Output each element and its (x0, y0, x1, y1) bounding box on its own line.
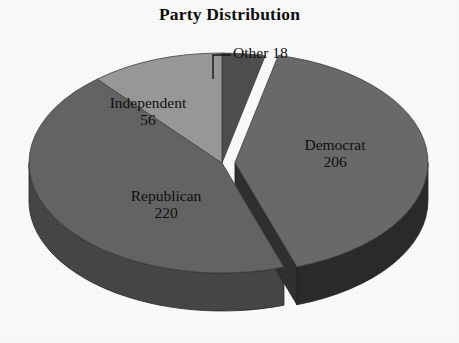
slice-label-other-text: Other 18 (233, 44, 288, 61)
pie-geometry (29, 53, 428, 311)
slice-label-democrat: Democrat 206 (283, 136, 387, 170)
slice-label-independent: Independent 56 (84, 94, 212, 128)
slice-label-independent-name: Independent (84, 94, 212, 111)
slice-label-republican-name: Republican (108, 187, 224, 204)
pie-chart-figure: Party Distribution Democrat 206 Republic… (0, 0, 459, 343)
slice-label-independent-value: 56 (84, 111, 212, 128)
pie-chart-canvas (0, 0, 459, 343)
slice-label-other: Other 18 (233, 44, 325, 61)
slice-label-republican-value: 220 (108, 204, 224, 221)
slice-label-democrat-value: 206 (283, 153, 387, 170)
slice-label-democrat-name: Democrat (283, 136, 387, 153)
slice-label-republican: Republican 220 (108, 187, 224, 221)
